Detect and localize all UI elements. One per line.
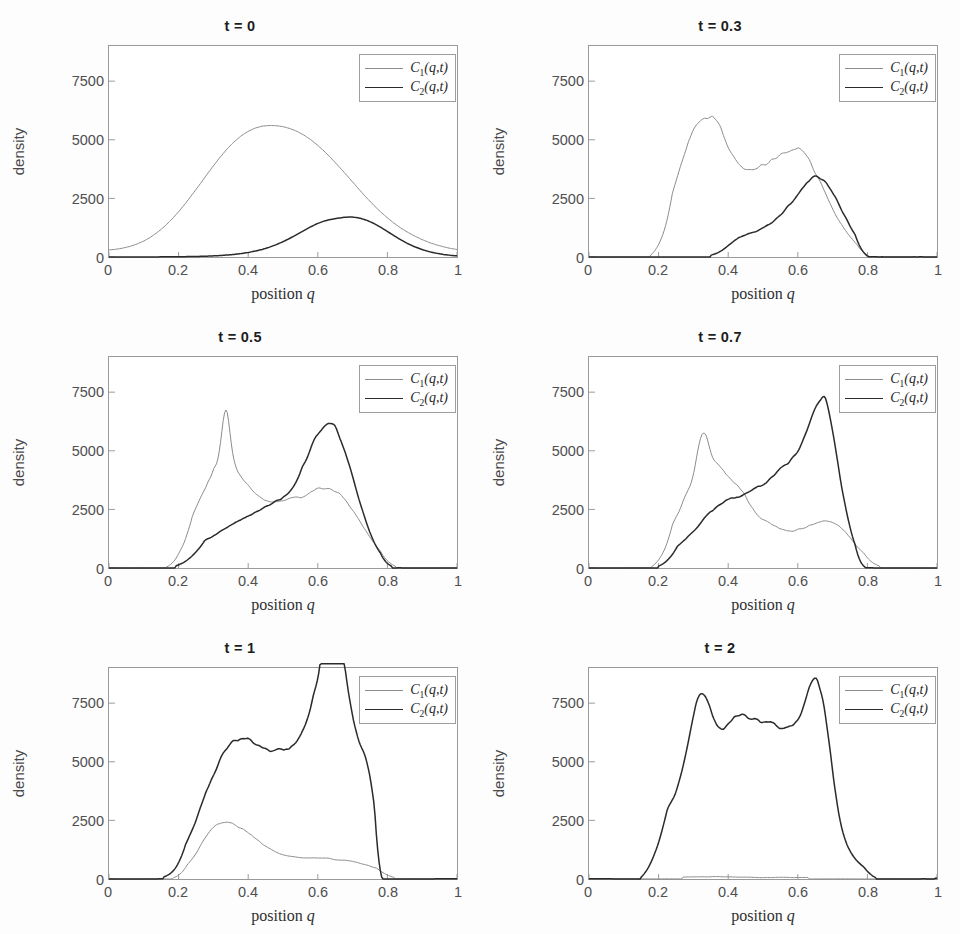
y-tick-label: 0 [42,561,104,577]
y-tick-label: 2500 [522,813,584,829]
y-tick-label: 5000 [42,754,104,770]
legend-entry-c2[interactable]: C2(q,t) [365,389,448,408]
x-tick-label: 1 [454,262,462,278]
legend-entry-c2[interactable]: C2(q,t) [845,700,928,719]
x-tick-label: 1 [454,573,462,589]
x-axis-label-variable: q [787,907,795,924]
legend-line-icon [845,709,883,710]
legend-label-args: (q,t) [904,60,928,75]
panel-title: t = 0.7 [480,329,960,345]
x-axis-label-text: position [251,907,307,924]
x-tick-label: 0 [584,573,592,589]
legend-label-symbol: C [410,701,419,716]
x-tick-label: 0 [104,262,112,278]
x-tick-labels: 00.20.40.60.81 [588,262,938,282]
legend-entry-c1[interactable]: C1(q,t) [365,370,448,389]
x-tick-label: 1 [934,262,942,278]
legend-entry-c2[interactable]: C2(q,t) [365,700,448,719]
x-axis-label-variable: q [307,596,315,613]
y-tick-label: 0 [42,872,104,888]
x-tick-label: 0.8 [858,573,878,589]
x-tick-labels: 00.20.40.60.81 [108,573,458,593]
legend-entry-c1[interactable]: C1(q,t) [365,681,448,700]
series-line-c1 [109,125,457,249]
series-line-c1 [589,433,937,568]
panel-title: t = 1 [0,640,480,656]
x-axis-label-text: position [731,596,787,613]
x-tick-label: 0.4 [718,262,738,278]
y-tick-labels: 0250050007500 [518,667,584,880]
x-axis-label-variable: q [787,596,795,613]
x-tick-label: 0.2 [648,884,668,900]
legend-entry-c1[interactable]: C1(q,t) [845,370,928,389]
y-axis-label: density [10,667,30,880]
legend-label: C1(q,t) [410,682,448,700]
panel-title: t = 0 [0,18,480,34]
plot-area: C1(q,t)C2(q,t) [108,45,458,258]
legend-entry-c2[interactable]: C2(q,t) [845,78,928,97]
legend-entry-c1[interactable]: C1(q,t) [845,681,928,700]
y-tick-labels: 0250050007500 [38,667,104,880]
legend-label-args: (q,t) [424,682,448,697]
legend-label: C2(q,t) [410,79,448,97]
legend-line-icon [845,379,883,380]
legend-label-symbol: C [890,390,899,405]
series-line-c1 [109,410,457,568]
x-axis-label-variable: q [307,907,315,924]
x-tick-label: 0.8 [378,573,398,589]
legend-entry-c1[interactable]: C1(q,t) [845,59,928,78]
legend-label-symbol: C [410,371,419,386]
legend-label-args: (q,t) [904,390,928,405]
legend-label: C2(q,t) [410,390,448,408]
y-tick-label: 0 [522,250,584,266]
x-axis-label-text: position [731,285,787,302]
plot-area: C1(q,t)C2(q,t) [108,667,458,880]
x-tick-label: 0.6 [308,884,328,900]
y-axis-label: density [490,45,510,258]
legend-label: C1(q,t) [410,371,448,389]
y-tick-labels: 0250050007500 [38,356,104,569]
x-tick-label: 0.6 [788,573,808,589]
legend: C1(q,t)C2(q,t) [839,676,936,724]
legend: C1(q,t)C2(q,t) [359,365,456,413]
legend-line-icon [845,87,883,88]
legend-entry-c2[interactable]: C2(q,t) [845,389,928,408]
legend-entry-c1[interactable]: C1(q,t) [365,59,448,78]
y-axis-label: density [490,667,510,880]
x-tick-label: 1 [934,573,942,589]
series-line-c1 [109,822,457,879]
legend-label: C2(q,t) [890,701,928,719]
plot-area: C1(q,t)C2(q,t) [108,356,458,569]
legend-entry-c2[interactable]: C2(q,t) [365,78,448,97]
legend-label-symbol: C [410,390,419,405]
legend-label: C1(q,t) [890,682,928,700]
legend-label-args: (q,t) [424,701,448,716]
series-line-c2 [589,176,937,257]
y-tick-label: 7500 [522,384,584,400]
panel-4: t = 0.7density0250050007500C1(q,t)C2(q,t… [480,311,960,622]
legend-label-symbol: C [890,682,899,697]
y-tick-label: 7500 [42,73,104,89]
legend-label-symbol: C [410,682,419,697]
legend-label-symbol: C [890,701,899,716]
y-tick-label: 7500 [42,384,104,400]
legend-label-args: (q,t) [904,79,928,94]
x-tick-label: 0 [584,262,592,278]
plot-area: C1(q,t)C2(q,t) [588,45,938,258]
y-tick-label: 5000 [42,132,104,148]
x-tick-label: 0.2 [168,573,188,589]
legend-label-symbol: C [410,60,419,75]
legend-label-symbol: C [890,60,899,75]
y-tick-label: 0 [42,250,104,266]
y-tick-label: 5000 [522,132,584,148]
panel-title: t = 0.5 [0,329,480,345]
y-tick-label: 5000 [522,754,584,770]
x-tick-label: 1 [934,884,942,900]
plot-area: C1(q,t)C2(q,t) [588,356,938,569]
legend-label-args: (q,t) [904,701,928,716]
panel-title: t = 0.3 [480,18,960,34]
panel-5: t = 1density0250050007500C1(q,t)C2(q,t)0… [0,622,480,934]
panel-title: t = 2 [480,640,960,656]
y-tick-label: 2500 [42,813,104,829]
x-tick-label: 0.6 [308,573,328,589]
